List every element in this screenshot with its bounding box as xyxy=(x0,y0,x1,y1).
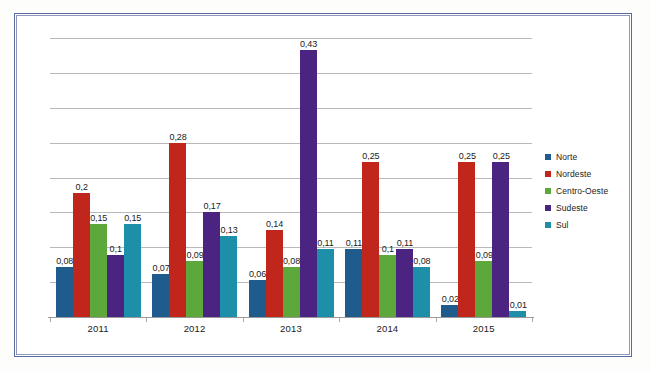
category-label-2014: 2014 xyxy=(342,323,432,334)
bar-group: 0,070,280,090,170,13 xyxy=(152,38,237,317)
bar-slot: 0,15 xyxy=(90,38,107,317)
category-label-2011: 2011 xyxy=(53,323,143,334)
axis-tick xyxy=(146,318,147,322)
bar-centro-oeste-2012[interactable] xyxy=(186,261,203,317)
bar-group: 0,020,250,090,250,01 xyxy=(441,38,526,317)
bar-sul-2012[interactable] xyxy=(220,236,237,317)
bar-slot: 0,02 xyxy=(441,38,458,317)
bar-slot: 0,11 xyxy=(396,38,413,317)
bar-value-label: 0,15 xyxy=(118,213,148,223)
bar-group: 0,110,250,10,110,08 xyxy=(345,38,430,317)
plot-area: 0,080,20,150,10,150,070,280,090,170,130,… xyxy=(50,38,532,317)
bar-slot: 0,2 xyxy=(73,38,90,317)
bar-slot: 0,17 xyxy=(203,38,220,317)
bar-group: 0,080,20,150,10,15 xyxy=(56,38,141,317)
legend-item-sul[interactable]: Sul xyxy=(545,216,608,233)
bar-norte-2013[interactable] xyxy=(249,280,266,317)
bar-slot: 0,25 xyxy=(362,38,379,317)
legend-label: Norte xyxy=(556,152,577,162)
bar-slot: 0,13 xyxy=(220,38,237,317)
bar-slot: 0,1 xyxy=(107,38,124,317)
bar-value-label: 0,08 xyxy=(407,256,437,266)
bar-slot: 0,43 xyxy=(300,38,317,317)
chart-legend: NorteNordesteCentro-OesteSudesteSul xyxy=(545,148,608,233)
legend-label: Centro-Oeste xyxy=(556,186,608,196)
category-label-2015: 2015 xyxy=(439,323,529,334)
bar-group: 0,060,140,080,430,11 xyxy=(249,38,334,317)
bar-slot: 0,09 xyxy=(186,38,203,317)
bar-norte-2015[interactable] xyxy=(441,305,458,317)
legend-label: Nordeste xyxy=(556,169,591,179)
legend-swatch-icon xyxy=(545,154,551,160)
legend-swatch-icon xyxy=(545,188,551,194)
axis-tick xyxy=(436,318,437,322)
bar-sudeste-2011[interactable] xyxy=(107,255,124,317)
bar-slot: 0,1 xyxy=(379,38,396,317)
bar-slot: 0,11 xyxy=(345,38,362,317)
x-axis-line xyxy=(48,317,534,318)
axis-tick xyxy=(339,318,340,322)
legend-item-nordeste[interactable]: Nordeste xyxy=(545,165,608,182)
bar-sudeste-2013[interactable] xyxy=(300,50,317,317)
category-label-2012: 2012 xyxy=(150,323,240,334)
legend-label: Sul xyxy=(556,220,569,230)
legend-label: Sudeste xyxy=(556,203,588,213)
bar-slot: 0,15 xyxy=(124,38,141,317)
bar-slot: 0,25 xyxy=(458,38,475,317)
bar-nordeste-2013[interactable] xyxy=(266,230,283,317)
legend-swatch-icon xyxy=(545,222,551,228)
bar-nordeste-2014[interactable] xyxy=(362,162,379,317)
bar-slot: 0,08 xyxy=(56,38,73,317)
chart-figure: 0,080,20,150,10,150,070,280,090,170,130,… xyxy=(0,0,651,372)
bar-slot: 0,08 xyxy=(283,38,300,317)
bar-centro-oeste-2013[interactable] xyxy=(283,267,300,317)
legend-item-centro-oeste[interactable]: Centro-Oeste xyxy=(545,182,608,199)
bar-slot: 0,28 xyxy=(169,38,186,317)
bar-slot: 0,09 xyxy=(475,38,492,317)
bar-sul-2011[interactable] xyxy=(124,224,141,317)
legend-item-norte[interactable]: Norte xyxy=(545,148,608,165)
bar-nordeste-2015[interactable] xyxy=(458,162,475,317)
bar-nordeste-2011[interactable] xyxy=(73,193,90,317)
category-label-2013: 2013 xyxy=(246,323,336,334)
bar-norte-2012[interactable] xyxy=(152,274,169,317)
bar-norte-2011[interactable] xyxy=(56,267,73,317)
bar-slot: 0,01 xyxy=(509,38,526,317)
bar-sudeste-2015[interactable] xyxy=(492,162,509,317)
legend-item-sudeste[interactable]: Sudeste xyxy=(545,199,608,216)
bar-slot: 0,11 xyxy=(317,38,334,317)
bar-value-label: 0,11 xyxy=(311,238,341,248)
legend-swatch-icon xyxy=(545,171,551,177)
bar-centro-oeste-2011[interactable] xyxy=(90,224,107,317)
bar-sul-2014[interactable] xyxy=(413,267,430,317)
bar-slot: 0,08 xyxy=(413,38,430,317)
bar-value-label: 0,01 xyxy=(503,300,533,310)
axis-tick xyxy=(243,318,244,322)
bar-sul-2013[interactable] xyxy=(317,249,334,317)
bar-slot: 0,14 xyxy=(266,38,283,317)
axis-tick xyxy=(50,318,51,322)
legend-swatch-icon xyxy=(545,205,551,211)
bar-slot: 0,06 xyxy=(249,38,266,317)
bar-centro-oeste-2015[interactable] xyxy=(475,261,492,317)
bar-slot: 0,25 xyxy=(492,38,509,317)
bar-centro-oeste-2014[interactable] xyxy=(379,255,396,317)
bar-slot: 0,07 xyxy=(152,38,169,317)
axis-tick xyxy=(532,318,533,322)
bar-norte-2014[interactable] xyxy=(345,249,362,317)
bar-nordeste-2012[interactable] xyxy=(169,143,186,317)
bar-value-label: 0,13 xyxy=(214,225,244,235)
